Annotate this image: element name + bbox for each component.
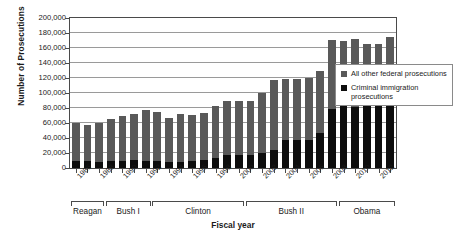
bar-segment-criminal-immigration [119, 161, 127, 169]
y-axis-tick-label: 180,000 [20, 29, 66, 37]
bar-column [212, 106, 220, 168]
y-axis-tick-label: 120,000 [20, 74, 66, 82]
legend-swatch-icon [341, 85, 347, 91]
bar-segment-criminal-immigration [212, 158, 220, 168]
bar-column [119, 116, 127, 168]
bar-column [84, 125, 92, 169]
y-axis-tick-label: 160,000 [20, 44, 66, 52]
bar-column [130, 114, 138, 168]
bar-column [153, 112, 161, 168]
bar-segment-criminal-immigration [165, 162, 173, 168]
y-axis-tick-label: 60,000 [20, 119, 66, 127]
bar-column [95, 123, 103, 168]
bar-segment-all-other-federal [305, 78, 313, 140]
bar-segment-all-other-federal [95, 123, 103, 162]
bar-segment-all-other-federal [212, 106, 220, 159]
bar-segment-all-other-federal [188, 115, 196, 161]
bar-segment-criminal-immigration [282, 140, 290, 168]
bar-segment-criminal-immigration [375, 100, 383, 168]
legend-swatch-icon [341, 71, 347, 77]
bar-segment-all-other-federal [282, 79, 290, 141]
prosecutions-stacked-bar-chart: Number of Prosecutions 200,000180,000160… [0, 0, 460, 238]
president-bracket [152, 201, 243, 206]
bar-column [270, 80, 278, 169]
y-axis-tick-label: 40,000 [20, 134, 66, 142]
bar-segment-all-other-federal [107, 119, 115, 162]
president-bracket [246, 201, 337, 206]
bar-column [258, 93, 266, 168]
bar-segment-all-other-federal [177, 114, 185, 161]
bar-segment-all-other-federal [165, 118, 173, 162]
bar-segment-criminal-immigration [72, 161, 80, 169]
bar-column [165, 118, 173, 168]
y-axis-tick-label: 200,000 [20, 14, 66, 22]
y-axis-tick-label: 80,000 [20, 104, 66, 112]
bar-column [142, 110, 150, 168]
president-bracket-label: Bush II [246, 207, 337, 216]
bar-segment-criminal-immigration [340, 102, 348, 168]
president-bracket [339, 201, 395, 206]
bar-segment-all-other-federal [270, 80, 278, 151]
bar-segment-all-other-federal [247, 101, 255, 155]
bar-segment-all-other-federal [153, 112, 161, 161]
bar-segment-all-other-federal [84, 125, 92, 162]
legend-label: Criminal immigration prosecutions [351, 83, 448, 101]
bar-segment-all-other-federal [119, 116, 127, 161]
bar-segment-criminal-immigration [351, 107, 359, 169]
y-axis-tick-label: 140,000 [20, 59, 66, 67]
bar-segment-criminal-immigration [258, 153, 266, 168]
legend-label: All other federal prosecutions [351, 69, 447, 78]
bar-segment-criminal-immigration [363, 104, 371, 169]
president-bracket-label: Bush I [106, 207, 151, 216]
y-axis-tick-label: 0 [20, 164, 66, 172]
y-axis-tick-label: 100,000 [20, 89, 66, 97]
legend: All other federal prosecutions Criminal … [335, 64, 453, 106]
bar-column [235, 101, 243, 168]
president-bracket [106, 201, 151, 206]
president-bracket-label: Reagan [71, 207, 104, 216]
legend-item-criminal-immigration: Criminal immigration prosecutions [341, 83, 448, 101]
bar-segment-criminal-immigration [328, 109, 336, 168]
bar-column [177, 114, 185, 168]
bar-column [223, 101, 231, 169]
bar-segment-all-other-federal [142, 110, 150, 160]
bar-column [282, 79, 290, 168]
bar-column [363, 44, 371, 168]
bar-column [107, 119, 115, 169]
bar-column [293, 79, 301, 168]
bar-column [316, 71, 324, 168]
bar-segment-all-other-federal [235, 101, 243, 155]
bar-segment-criminal-immigration [142, 161, 150, 169]
bar-column [247, 101, 255, 168]
bar-segment-criminal-immigration [305, 140, 313, 168]
bar-segment-all-other-federal [72, 123, 80, 161]
bar-segment-criminal-immigration [95, 162, 103, 168]
president-bracket-label: Obama [339, 207, 395, 216]
x-axis-title: Fiscal year [69, 220, 397, 230]
bar-segment-criminal-immigration [188, 161, 196, 168]
bar-segment-criminal-immigration [235, 155, 243, 168]
bar-segment-criminal-immigration [386, 95, 394, 168]
bar-column [188, 115, 196, 168]
bar-segment-all-other-federal [316, 71, 324, 133]
legend-item-all-other-federal: All other federal prosecutions [341, 69, 448, 78]
bar-column [200, 113, 208, 168]
bar-segment-all-other-federal [293, 79, 301, 141]
y-axis-tick-label: 20,000 [20, 149, 66, 157]
bar-segment-all-other-federal [258, 93, 266, 153]
president-bracket [71, 201, 104, 206]
bar-column [305, 78, 313, 168]
bar-column [72, 123, 80, 168]
bar-segment-all-other-federal [223, 101, 231, 155]
president-bracket-label: Clinton [152, 207, 243, 216]
bar-segment-all-other-federal [130, 114, 138, 161]
bar-segment-all-other-federal [200, 113, 208, 160]
